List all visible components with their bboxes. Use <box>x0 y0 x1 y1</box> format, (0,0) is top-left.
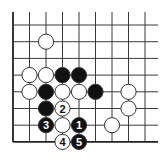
white-stone <box>38 34 53 49</box>
stone-circle <box>38 84 53 99</box>
white-stone <box>121 84 136 99</box>
white-stone-move-4: 4 <box>55 134 70 149</box>
white-stone <box>22 68 37 83</box>
white-stone <box>38 68 53 83</box>
go-board: 23145 <box>0 0 166 162</box>
white-stone <box>55 84 70 99</box>
stone-circle <box>38 101 53 116</box>
white-stone <box>71 84 86 99</box>
white-stone <box>55 118 70 133</box>
stone-circle <box>71 68 86 83</box>
move-number-label: 3 <box>43 119 49 131</box>
black-stone <box>88 84 103 99</box>
stone-circle <box>121 101 136 116</box>
white-stone <box>22 84 37 99</box>
white-stone <box>104 118 119 133</box>
black-stone <box>55 68 70 83</box>
move-number-label: 2 <box>59 103 65 115</box>
black-stone <box>71 68 86 83</box>
stone-circle <box>104 118 119 133</box>
stone-circle <box>55 84 70 99</box>
stone-circle <box>22 84 37 99</box>
move-number-label: 4 <box>59 136 66 148</box>
stone-circle <box>38 34 53 49</box>
black-stone-move-3: 3 <box>38 118 53 133</box>
stone-circle <box>55 68 70 83</box>
move-number-label: 1 <box>76 119 82 131</box>
white-stone-move-2: 2 <box>55 101 70 116</box>
stone-circle <box>38 68 53 83</box>
black-stone-move-5: 5 <box>71 134 86 149</box>
black-stone <box>38 101 53 116</box>
stone-circle <box>71 84 86 99</box>
stone-circle <box>22 68 37 83</box>
white-stone <box>121 101 136 116</box>
stone-circle <box>121 84 136 99</box>
stone-circle <box>88 84 103 99</box>
stone-circle <box>55 118 70 133</box>
black-stone <box>38 84 53 99</box>
black-stone-move-1: 1 <box>71 118 86 133</box>
move-number-label: 5 <box>76 136 82 148</box>
